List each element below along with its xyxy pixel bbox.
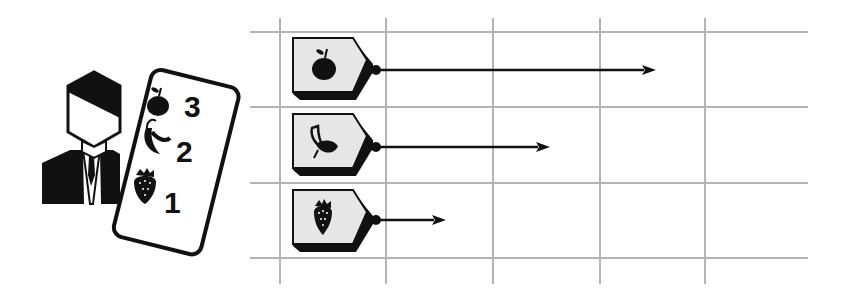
arrow-head-icon — [536, 142, 550, 152]
bar-row-strawberry — [293, 190, 446, 252]
fruit-tag-banana — [293, 114, 373, 176]
bar-row-apple — [293, 38, 656, 100]
fruit-tag-strawberry — [293, 190, 373, 252]
rank-banana: 2 — [176, 135, 193, 168]
arrow-head-icon — [432, 215, 446, 225]
businessman-icon — [42, 72, 120, 204]
rank-apple: 3 — [184, 90, 201, 123]
arrow-head-icon — [642, 65, 656, 75]
fruit-tag-apple — [293, 38, 373, 100]
bar-row-banana — [293, 114, 550, 176]
rank-strawberry: 1 — [164, 186, 181, 219]
diagram-canvas: 3 2 1 — [0, 0, 842, 298]
